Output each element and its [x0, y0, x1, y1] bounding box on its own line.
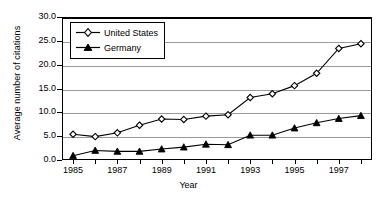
legend: United States Germany	[70, 22, 165, 59]
x-axis-tick	[361, 160, 362, 164]
x-axis-tick	[228, 160, 229, 164]
y-axis-tick-label: 30.0	[12, 11, 56, 21]
legend-label: Germany	[104, 43, 141, 53]
triangle-marker-icon	[75, 42, 101, 53]
x-axis-tick	[117, 160, 118, 164]
gridline	[63, 90, 371, 91]
gridline	[63, 66, 371, 67]
x-axis-title: Year	[0, 180, 377, 190]
x-axis-tick	[95, 160, 96, 164]
x-axis-tick	[272, 160, 273, 164]
x-axis-tick	[162, 160, 163, 164]
y-axis-tick-label: 0.0	[12, 154, 56, 164]
y-axis-tick-label: 5.0	[12, 130, 56, 140]
diamond-marker-icon	[75, 27, 101, 38]
gridline	[63, 113, 371, 114]
x-axis-tick-label: 1993	[230, 165, 270, 175]
x-axis-tick-label: 1991	[186, 165, 226, 175]
legend-label: United States	[104, 28, 158, 38]
citations-line-chart: Average number of citations Year 0.05.01…	[0, 0, 377, 199]
gridline	[63, 18, 371, 19]
x-axis-tick-label: 1989	[142, 165, 182, 175]
y-axis-tick-label: 10.0	[12, 106, 56, 116]
y-axis-tick	[57, 160, 62, 161]
x-axis-tick	[250, 160, 251, 164]
x-axis-tick	[206, 160, 207, 164]
x-axis-tick	[295, 160, 296, 164]
legend-item-united-states[interactable]: United States	[75, 25, 158, 40]
y-axis-tick-label: 20.0	[12, 59, 56, 69]
x-axis-tick	[140, 160, 141, 164]
x-axis-tick	[73, 160, 74, 164]
y-axis-tick-label: 15.0	[12, 83, 56, 93]
x-axis-tick-label: 1997	[319, 165, 359, 175]
x-axis-tick-label: 1995	[275, 165, 315, 175]
x-axis-tick-label: 1985	[53, 165, 93, 175]
x-axis-tick	[184, 160, 185, 164]
x-axis-tick	[339, 160, 340, 164]
x-axis-tick-label: 1987	[97, 165, 137, 175]
x-axis-tick	[317, 160, 318, 164]
legend-item-germany[interactable]: Germany	[75, 40, 158, 55]
y-axis-tick-label: 25.0	[12, 35, 56, 45]
gridline	[63, 137, 371, 138]
